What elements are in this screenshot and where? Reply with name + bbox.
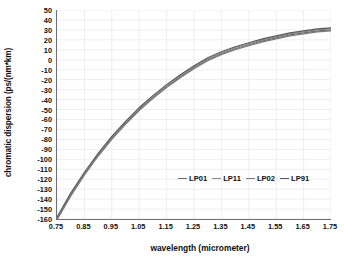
- y-tick-label: -150: [18, 206, 52, 213]
- plot-area: [56, 10, 331, 220]
- gridlines: [57, 10, 331, 219]
- x-tick-label: 0.85: [76, 222, 90, 231]
- legend-item-lp01: LP01: [178, 174, 207, 183]
- x-tick-label: 1.45: [241, 222, 255, 231]
- x-tick-label: 1.35: [213, 222, 227, 231]
- y-tick-label: -80: [18, 136, 52, 143]
- y-tick-label: -50: [18, 106, 52, 113]
- y-tick-label: -40: [18, 96, 52, 103]
- y-axis-title: chromatic dispersion (ps/(nm*km): [5, 48, 14, 177]
- y-tick-label: -70: [18, 126, 52, 133]
- plot-svg: [57, 10, 331, 219]
- x-tick-label: 1.15: [158, 222, 172, 231]
- y-tick-label: 40: [18, 16, 52, 23]
- y-tick-label: -130: [18, 186, 52, 193]
- y-tick-label: 50: [18, 7, 52, 14]
- y-axis-tick-labels: 50403020100-10-20-30-40-50-60-70-80-90-1…: [18, 0, 52, 219]
- x-axis-tick-labels: 0.750.850.951.051.151.251.351.451.551.65…: [0, 222, 344, 236]
- x-tick-label: 0.95: [104, 222, 118, 231]
- y-tick-label: -20: [18, 76, 52, 83]
- legend-item-label: LP91: [291, 174, 309, 183]
- y-tick-label: -140: [18, 196, 52, 203]
- legend-item-lp02: LP02: [246, 174, 275, 183]
- x-tick-label: 0.75: [49, 222, 63, 231]
- x-tick-label: 1.55: [268, 222, 282, 231]
- legend-item-label: LP01: [189, 174, 207, 183]
- y-tick-label: -120: [18, 176, 52, 183]
- x-tick-label: 1.25: [186, 222, 200, 231]
- y-tick-label: -90: [18, 146, 52, 153]
- y-tick-label: 30: [18, 26, 52, 33]
- chromatic-dispersion-chart: chromatic dispersion (ps/(nm*km) 5040302…: [0, 0, 344, 263]
- y-tick-label: 10: [18, 46, 52, 53]
- y-tick-label: 20: [18, 36, 52, 43]
- y-tick-label: -30: [18, 86, 52, 93]
- chart-legend: LP01LP11LP02LP91: [178, 171, 328, 185]
- y-tick-label: 0: [18, 56, 52, 63]
- x-tick-label: 1.75: [323, 222, 337, 231]
- legend-swatch-icon: [212, 178, 221, 179]
- legend-swatch-icon: [246, 178, 255, 179]
- x-tick-label: 1.05: [131, 222, 145, 231]
- y-tick-label: -60: [18, 116, 52, 123]
- x-axis-title: wavelength (micrometer): [56, 243, 344, 253]
- legend-item-lp11: LP11: [212, 174, 241, 183]
- y-axis-title-container: chromatic dispersion (ps/(nm*km): [0, 0, 18, 225]
- x-tick-label: 1.65: [295, 222, 309, 231]
- legend-item-label: LP11: [223, 174, 241, 183]
- y-tick-label: -10: [18, 66, 52, 73]
- y-tick-label: -100: [18, 156, 52, 163]
- legend-item-label: LP02: [257, 174, 275, 183]
- legend-swatch-icon: [178, 178, 187, 179]
- legend-item-lp91: LP91: [280, 174, 309, 183]
- y-tick-label: -110: [18, 166, 52, 173]
- legend-swatch-icon: [280, 178, 289, 179]
